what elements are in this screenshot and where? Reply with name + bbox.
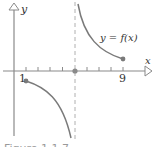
isolated-point bbox=[72, 68, 77, 73]
tick-label-1: 1 bbox=[19, 72, 26, 85]
function-label: y = f(x) bbox=[99, 32, 138, 43]
x-axis-label: x bbox=[145, 55, 151, 66]
x-axis-arrow-icon bbox=[145, 66, 152, 76]
right-endpoint bbox=[121, 57, 126, 62]
y-axis-label: y bbox=[20, 3, 28, 16]
figure-caption: Figure 1.1.7 bbox=[4, 142, 69, 147]
function-graph: y x 1 9 y = f(x) Figure 1.1.7 bbox=[0, 0, 153, 147]
tick-label-9: 9 bbox=[119, 72, 126, 85]
y-axis-arrow-icon bbox=[9, 3, 19, 10]
left-branch-curve bbox=[26, 81, 71, 138]
